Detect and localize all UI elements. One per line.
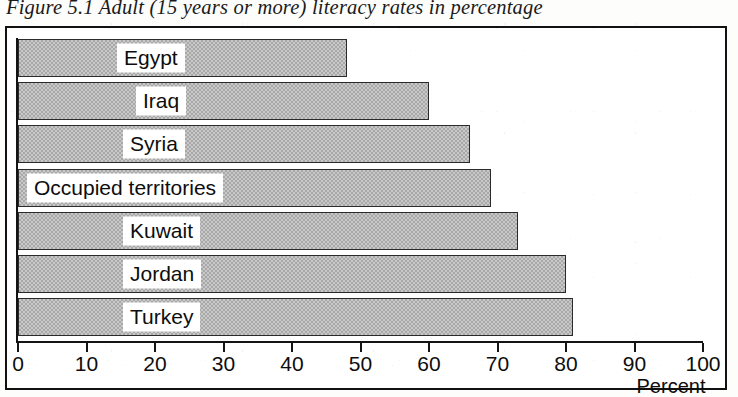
tick-label-90: 90 xyxy=(623,352,646,376)
bar-label-occupied-territories: Occupied territories xyxy=(27,173,223,202)
bar-row: Syria xyxy=(18,125,703,163)
bar-row: Kuwait xyxy=(18,212,703,250)
chart-frame: EgyptIraqSyriaOccupied territoriesKuwait… xyxy=(5,26,727,390)
tick-label-50: 50 xyxy=(349,352,372,376)
bar-row: Occupied territories xyxy=(18,169,703,207)
tick-mark-0 xyxy=(17,343,19,352)
tick-mark-40 xyxy=(291,343,293,352)
tick-mark-80 xyxy=(565,343,567,352)
tick-mark-90 xyxy=(634,343,636,352)
tick-label-60: 60 xyxy=(417,352,440,376)
tick-mark-100 xyxy=(702,343,704,352)
bar-row: Iraq xyxy=(18,82,703,120)
tick-label-100: 100 xyxy=(685,352,720,376)
tick-mark-20 xyxy=(154,343,156,352)
bar-turkey[interactable] xyxy=(18,298,573,336)
bar-label-jordan: Jordan xyxy=(123,260,201,289)
bar-label-iraq: Iraq xyxy=(136,87,186,116)
bar-label-kuwait: Kuwait xyxy=(123,216,200,245)
bar-row: Jordan xyxy=(18,255,703,293)
bar-label-syria: Syria xyxy=(123,130,185,159)
plot-area: EgyptIraqSyriaOccupied territoriesKuwait… xyxy=(7,28,729,392)
bar-row: Turkey xyxy=(18,298,703,336)
tick-mark-70 xyxy=(497,343,499,352)
tick-label-40: 40 xyxy=(280,352,303,376)
tick-label-70: 70 xyxy=(486,352,509,376)
tick-mark-30 xyxy=(223,343,225,352)
tick-label-0: 0 xyxy=(12,352,24,376)
bar-iraq[interactable] xyxy=(18,82,429,120)
bar-jordan[interactable] xyxy=(18,255,566,293)
bar-label-egypt: Egypt xyxy=(117,44,185,73)
tick-mark-50 xyxy=(360,343,362,352)
bar-syria[interactable] xyxy=(18,125,470,163)
tick-mark-60 xyxy=(428,343,430,352)
tick-label-20: 20 xyxy=(143,352,166,376)
bar-row: Egypt xyxy=(18,39,703,77)
figure-caption: Figure 5.1 Adult (15 years or more) lite… xyxy=(6,0,732,20)
tick-label-10: 10 xyxy=(75,352,98,376)
bar-kuwait[interactable] xyxy=(18,212,518,250)
tick-label-80: 80 xyxy=(554,352,577,376)
bar-label-turkey: Turkey xyxy=(123,303,200,332)
x-axis-title: Percent xyxy=(637,375,706,397)
tick-mark-10 xyxy=(86,343,88,352)
tick-label-30: 30 xyxy=(212,352,235,376)
